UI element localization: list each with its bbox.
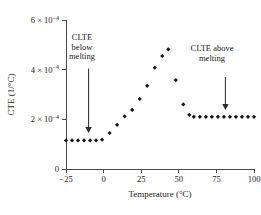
- arrow-head: [222, 104, 228, 110]
- x-tick-label: 50: [175, 174, 184, 184]
- x-tick-label: 25: [137, 174, 146, 184]
- data-point: [246, 115, 250, 119]
- data-point: [192, 115, 196, 119]
- data-point: [234, 115, 238, 119]
- x-tick-label: 100: [248, 174, 261, 184]
- data-point: [130, 108, 134, 112]
- data-point: [216, 115, 220, 119]
- annotation-arrows: [85, 68, 228, 133]
- data-point: [76, 138, 80, 142]
- data-point: [252, 115, 256, 119]
- data-point: [210, 115, 214, 119]
- annotation-clte-below-melting: CLTE below melting: [60, 33, 104, 62]
- data-point: [204, 115, 208, 119]
- arrow-head: [85, 127, 91, 133]
- data-point: [181, 102, 185, 106]
- y-axis-title: CTE (1/°C): [6, 74, 16, 116]
- data-point: [153, 66, 157, 70]
- x-tick-label: 0: [101, 174, 105, 184]
- data-point: [138, 97, 142, 101]
- data-point: [123, 114, 127, 118]
- data-point: [222, 115, 226, 119]
- data-point: [228, 115, 232, 119]
- y-tick-label: 0: [55, 164, 59, 174]
- data-point: [82, 138, 86, 142]
- y-tick-label: 4 × 10−4: [31, 64, 59, 74]
- data-point: [240, 115, 244, 119]
- chart-canvas: −25025507510002 × 10−44 × 10−46 × 10−4 T…: [0, 0, 261, 215]
- data-point: [70, 138, 74, 142]
- data-point: [198, 115, 202, 119]
- data-point: [100, 138, 104, 142]
- data-point: [174, 78, 178, 82]
- data-point: [166, 47, 170, 51]
- data-point: [160, 54, 164, 58]
- axis-titles: Temperature (°C)CTE (1/°C): [6, 74, 192, 199]
- annotation-clte-above-melting: CLTE above melting: [172, 44, 252, 63]
- y-tick-label: 6 × 10−4: [31, 15, 59, 25]
- x-tick-label: 75: [212, 174, 221, 184]
- x-tick-label: −25: [59, 174, 72, 184]
- data-point: [115, 123, 119, 127]
- data-point: [94, 138, 98, 142]
- x-axis-title: Temperature (°C): [128, 189, 191, 199]
- data-point: [64, 138, 68, 142]
- data-point: [145, 84, 149, 88]
- data-point: [187, 113, 191, 117]
- data-point: [88, 138, 92, 142]
- y-tick-label: 2 × 10−4: [31, 114, 59, 124]
- data-point: [108, 131, 112, 135]
- cte-vs-temperature-chart: −25025507510002 × 10−44 × 10−46 × 10−4 T…: [0, 0, 261, 215]
